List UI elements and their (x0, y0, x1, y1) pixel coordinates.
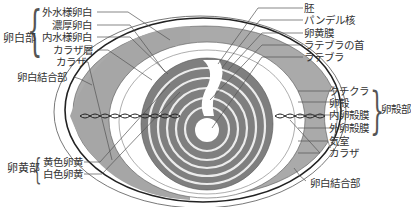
yolk-group-title: 卵黄部 (7, 163, 40, 175)
label-pander-nucleus: パンデル核 (304, 14, 355, 26)
label-yellow-yolk: 黄色卵黄 (43, 156, 83, 168)
egg-structure-diagram: { 卵白部 外水様卵白 濃厚卵白 内水様卵白 カラザ層 カラザ 卵白結合部 { … (0, 0, 411, 207)
label-chalaza-layer: カラザ層 (53, 44, 93, 56)
label-outer-shell-membrane: 外卵殻膜 (329, 122, 369, 134)
shell-group-title: 卵殻部 (381, 103, 411, 115)
label-embryo: 胚 (304, 2, 314, 14)
label-thick-albumen: 濃厚卵白 (52, 19, 92, 31)
label-albumen-junction-left: 卵白結合部 (17, 71, 67, 83)
label-vitelline-membrane: 卵黄膜 (304, 27, 334, 39)
latebra (195, 118, 219, 142)
label-white-yolk: 白色卵黄 (43, 168, 83, 180)
label-latebra-neck: ラテブラの首 (304, 39, 364, 51)
label-inner-shell-membrane: 内卵殻膜 (329, 109, 369, 121)
label-inner-thin-albumen: 内水様卵白 (42, 31, 92, 43)
label-cuticle: クチクラ (329, 85, 369, 97)
label-air-cell: 気室 (329, 135, 349, 147)
label-chalaza-left: カラザ (56, 56, 86, 68)
label-chalaza-right: カラザ (329, 147, 359, 159)
label-eggshell: 卵殻 (329, 97, 349, 109)
label-albumen-junction-right: 卵白結合部 (310, 177, 360, 189)
albumen-group-brace: { (27, 4, 42, 58)
label-outer-thin-albumen: 外水様卵白 (42, 6, 92, 18)
label-latebra: ラテブラ (304, 51, 344, 63)
albumen-group-title: 卵白部 (3, 33, 36, 45)
